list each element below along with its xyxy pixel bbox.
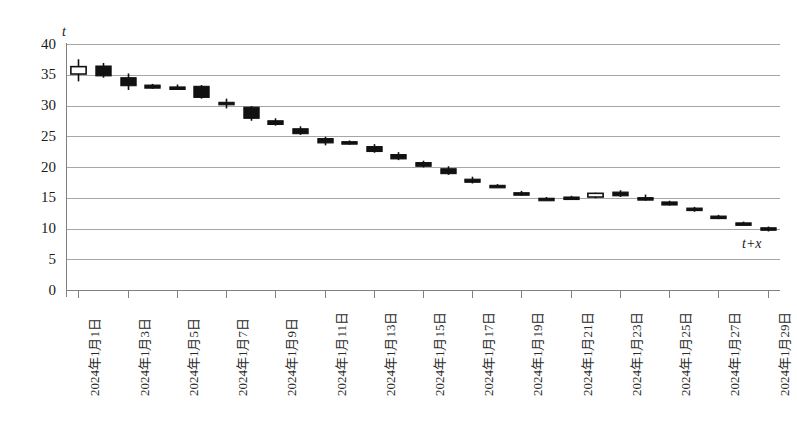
- candlestick: [736, 222, 751, 226]
- x-axis-tick-label: 2024年1月19日: [527, 312, 546, 397]
- y-axis-tick-label: 35: [22, 67, 56, 82]
- candlestick: [293, 126, 308, 135]
- candlestick-body: [244, 107, 259, 118]
- y-axis-tick-label: 10: [22, 221, 56, 236]
- candlestick-body: [145, 85, 160, 88]
- x-axis-tick-label: 2024年1月3日: [134, 318, 153, 396]
- candlestick-body: [638, 198, 653, 201]
- x-axis-tick-label: 2024年1月11日: [331, 312, 350, 396]
- candlestick: [638, 195, 653, 201]
- candlestick-chart: t t+x 0510152025303540 2024年1月1日2024年1月3…: [0, 0, 797, 443]
- candlestick: [121, 73, 136, 90]
- candlestick: [391, 152, 406, 160]
- candlestick: [761, 227, 776, 232]
- candlestick-body: [736, 223, 751, 226]
- candlestick-body: [465, 179, 480, 182]
- y-axis-tick-label: 25: [22, 129, 56, 144]
- y-axis-tick-label: 30: [22, 98, 56, 113]
- candlestick-body: [96, 66, 111, 76]
- candlestick-body: [268, 121, 283, 125]
- x-axis-tick-label: 2024年1月23日: [626, 312, 645, 397]
- x-axis-tick-label: 2024年1月7日: [232, 318, 251, 396]
- candlestick: [588, 193, 603, 199]
- x-axis-tick-label: 2024年1月9日: [281, 318, 300, 396]
- x-axis-tick-label: 2024年1月15日: [429, 312, 448, 397]
- candlestick: [711, 215, 726, 219]
- candlestick-body: [391, 155, 406, 159]
- y-axis-tick-label: 0: [22, 283, 56, 298]
- candlestick-body: [219, 102, 234, 105]
- candlestick-body: [342, 142, 357, 145]
- candlestick: [514, 191, 529, 196]
- candlestick-body: [71, 67, 86, 74]
- candlestick: [687, 207, 702, 212]
- candlestick: [96, 63, 111, 78]
- x-axis-tick-label: 2024年1月13日: [380, 312, 399, 397]
- candlestick: [416, 161, 431, 168]
- candlestick-body: [318, 139, 333, 143]
- y-axis-title: t: [62, 24, 66, 40]
- x-axis-tick-label: 2024年1月5日: [183, 318, 202, 396]
- candlestick-body: [293, 129, 308, 134]
- candlestick: [662, 201, 677, 206]
- candlestick: [465, 177, 480, 184]
- candlestick-body: [194, 86, 209, 97]
- x-axis-tick-label: 2024年1月25日: [675, 312, 694, 397]
- candlestick-body: [662, 202, 677, 205]
- candlestick-body: [761, 228, 776, 231]
- candlestick-body: [687, 208, 702, 211]
- candlestick: [539, 197, 554, 201]
- candlestick-body: [367, 147, 382, 152]
- candlestick-body: [564, 197, 579, 200]
- candlestick: [71, 59, 86, 81]
- candlestick-body: [490, 185, 505, 188]
- candlestick-body: [170, 87, 185, 90]
- y-axis-tick-label: 40: [22, 37, 56, 52]
- candlestick-body: [613, 192, 628, 196]
- y-axis-tick-label: 15: [22, 190, 56, 205]
- candlestick-body: [539, 198, 554, 201]
- candlestick: [194, 85, 209, 99]
- x-axis-tick-label: 2024年1月21日: [577, 312, 596, 397]
- candlestick-body: [711, 216, 726, 219]
- candlestick: [613, 190, 628, 197]
- candlestick: [342, 140, 357, 144]
- candlestick: [170, 84, 185, 89]
- candlestick: [318, 137, 333, 146]
- x-axis-tick-label: 2024年1月17日: [478, 312, 497, 397]
- x-axis-title: t+x: [742, 236, 762, 252]
- candlestick: [564, 196, 579, 200]
- candlestick: [268, 118, 283, 125]
- candlestick-body: [441, 169, 456, 174]
- candlestick-body: [514, 193, 529, 196]
- candlestick: [490, 184, 505, 188]
- candlestick-body: [588, 193, 603, 197]
- candlestick: [145, 84, 160, 89]
- candlestick-body: [121, 78, 136, 86]
- x-axis-tick-label: 2024年1月29日: [774, 312, 793, 397]
- candlestick: [244, 106, 259, 121]
- x-axis-tick-label: 2024年1月1日: [84, 318, 103, 396]
- y-axis-tick-label: 20: [22, 160, 56, 175]
- y-axis-tick-label: 5: [22, 252, 56, 267]
- candlestick-body: [416, 163, 431, 167]
- x-axis-tick-label: 2024年1月27日: [724, 312, 743, 397]
- candlestick: [367, 144, 382, 153]
- candlestick: [219, 99, 234, 109]
